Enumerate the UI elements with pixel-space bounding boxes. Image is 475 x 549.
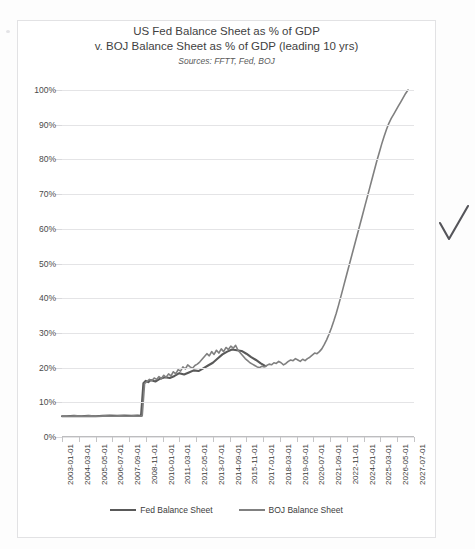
x-tick-mark <box>146 437 147 442</box>
y-tick-label: 60% <box>39 224 56 234</box>
y-tick-label: 50% <box>39 259 56 269</box>
x-tick-label: 2003-01-01 <box>66 444 75 485</box>
gridline <box>62 264 414 265</box>
x-tick-mark <box>213 437 214 442</box>
x-tick-label: 2013-07-01 <box>217 444 226 485</box>
x-tick-label: 2005-05-01 <box>100 444 109 485</box>
y-tick-mark <box>55 194 62 195</box>
x-tick-mark <box>163 437 164 442</box>
x-tick-mark <box>330 437 331 442</box>
chart-title-line2: v. BOJ Balance Sheet as % of GDP (leadin… <box>17 39 436 54</box>
x-tick-label: 2019-05-01 <box>301 444 310 485</box>
scan-speck <box>6 30 10 33</box>
plot-area: 0%10%20%30%40%50%60%70%80%90%100% <box>62 90 414 437</box>
x-tick-label: 2010-01-01 <box>167 444 176 485</box>
y-tick-mark <box>55 333 62 334</box>
x-tick-mark <box>62 437 63 442</box>
y-tick-label: 100% <box>34 85 56 95</box>
x-tick-label: 2015-11-01 <box>250 444 259 484</box>
y-tick-label: 40% <box>39 293 56 303</box>
gridline <box>62 368 414 369</box>
x-tick-mark <box>414 437 415 442</box>
x-tick-mark <box>397 437 398 442</box>
x-tick-label: 2008-11-01 <box>150 444 159 484</box>
legend-swatch <box>239 509 265 512</box>
legend-item[interactable]: BOJ Balance Sheet <box>239 505 343 515</box>
chart-title-block: US Fed Balance Sheet as % of GDP v. BOJ … <box>17 24 436 67</box>
x-tick-label: 2026-05-01 <box>401 444 410 485</box>
y-tick-mark <box>55 159 62 160</box>
x-tick-marks <box>62 437 414 443</box>
gridline <box>62 229 414 230</box>
chart-legend: Fed Balance SheetBOJ Balance Sheet <box>17 505 436 515</box>
x-tick-mark <box>129 437 130 442</box>
y-tick-mark <box>55 437 62 438</box>
x-tick-label: 2022-11-01 <box>351 444 360 484</box>
x-tick-mark <box>79 437 80 442</box>
x-tick-label: 2007-09-01 <box>133 444 142 485</box>
x-tick-label: 2027-07-01 <box>418 444 427 485</box>
x-tick-mark <box>96 437 97 442</box>
y-tick-mark <box>55 368 62 369</box>
gridline <box>62 194 414 195</box>
chart-source-note: Sources: FFTT, Fed, BOJ <box>17 55 436 67</box>
x-tick-mark <box>380 437 381 442</box>
x-tick-label: 2025-03-01 <box>384 444 393 485</box>
gridline <box>62 402 414 403</box>
y-tick-mark <box>55 402 62 403</box>
legend-label: Fed Balance Sheet <box>140 505 212 515</box>
x-tick-label: 2006-07-01 <box>116 444 125 485</box>
gridline <box>62 125 414 126</box>
gridline <box>62 333 414 334</box>
x-tick-mark <box>246 437 247 442</box>
x-tick-mark <box>230 437 231 442</box>
legend-item[interactable]: Fed Balance Sheet <box>110 505 212 515</box>
x-tick-mark <box>112 437 113 442</box>
x-tick-label: 2024-01-01 <box>368 444 377 485</box>
x-tick-mark <box>313 437 314 442</box>
chart-title-line1: US Fed Balance Sheet as % of GDP <box>17 24 436 39</box>
x-tick-mark <box>179 437 180 442</box>
x-tick-label: 2017-01-01 <box>267 444 276 485</box>
y-tick-mark <box>55 264 62 265</box>
gridline <box>62 90 414 91</box>
y-tick-label: 90% <box>39 120 56 130</box>
x-tick-mark <box>364 437 365 442</box>
x-tick-mark <box>280 437 281 442</box>
legend-label: BOJ Balance Sheet <box>269 505 343 515</box>
y-tick-mark <box>55 125 62 126</box>
x-tick-label: 2004-03-01 <box>83 444 92 485</box>
x-tick-mark <box>196 437 197 442</box>
y-tick-label: 80% <box>39 154 56 164</box>
x-tick-label: 2021-09-01 <box>334 444 343 485</box>
x-tick-mark <box>347 437 348 442</box>
y-tick-label: 30% <box>39 328 56 338</box>
gridline <box>62 159 414 160</box>
series-line <box>62 350 266 417</box>
y-tick-mark <box>55 229 62 230</box>
y-tick-label: 70% <box>39 189 56 199</box>
y-tick-label: 20% <box>39 363 56 373</box>
x-tick-labels: 2003-01-012004-03-012005-05-012006-07-01… <box>62 444 414 502</box>
handwritten-check-mark-icon <box>437 203 471 249</box>
gridline <box>62 298 414 299</box>
y-tick-label: 0% <box>44 432 56 442</box>
x-tick-mark <box>297 437 298 442</box>
x-tick-label: 2020-07-01 <box>317 444 326 485</box>
x-tick-mark <box>263 437 264 442</box>
legend-swatch <box>110 509 136 512</box>
scan-artifact-text <box>150 0 350 12</box>
x-tick-label: 2012-05-01 <box>200 444 209 485</box>
x-tick-label: 2011-03-01 <box>183 444 192 484</box>
y-tick-label: 10% <box>39 397 56 407</box>
x-tick-label: 2018-03-01 <box>284 444 293 485</box>
x-tick-label: 2014-09-01 <box>234 444 243 485</box>
y-tick-mark <box>55 298 62 299</box>
